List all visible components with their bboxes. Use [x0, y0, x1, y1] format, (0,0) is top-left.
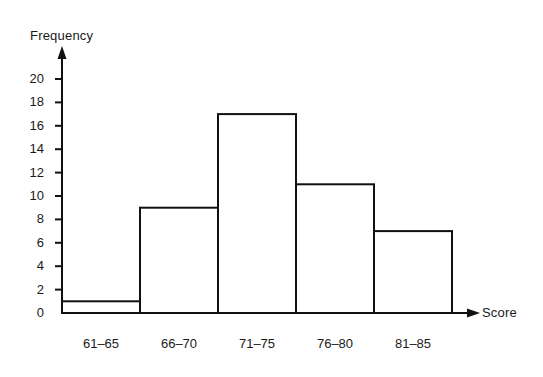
x-axis-arrow-icon: [467, 309, 480, 318]
histogram-bar: [374, 231, 452, 313]
histogram-bar: [140, 208, 218, 313]
x-axis-tick-label: 76–80: [296, 337, 374, 350]
y-axis-tick-label: 12: [18, 166, 44, 179]
y-axis-tick-label: 18: [18, 95, 44, 108]
x-axis-tick-label: 71–75: [218, 337, 296, 350]
y-axis-tick-label: 14: [18, 142, 44, 155]
y-axis-tick-label: 0: [18, 306, 44, 319]
y-axis-tick-label: 8: [18, 212, 44, 225]
y-axis-tick-label: 6: [18, 236, 44, 249]
y-axis-tick-label: 2: [18, 283, 44, 296]
x-axis-tick-label: 81–85: [374, 337, 452, 350]
histogram-bar: [218, 114, 296, 313]
axis-lines: [58, 46, 481, 318]
plot-area: [0, 0, 543, 377]
y-axis-tick-label: 16: [18, 119, 44, 132]
y-axis-ticks: [55, 79, 62, 290]
y-axis-arrow-icon: [58, 46, 67, 59]
y-axis-tick-label: 20: [18, 72, 44, 85]
bars-group: [62, 114, 452, 313]
y-axis-tick-label: 10: [18, 189, 44, 202]
x-axis-tick-label: 61–65: [62, 337, 140, 350]
histogram-chart: Frequency Score 02468101214161820 61–656…: [0, 0, 543, 377]
y-axis-tick-label: 4: [18, 259, 44, 272]
histogram-bar: [296, 184, 374, 313]
histogram-bar: [62, 301, 140, 313]
x-axis-tick-label: 66–70: [140, 337, 218, 350]
